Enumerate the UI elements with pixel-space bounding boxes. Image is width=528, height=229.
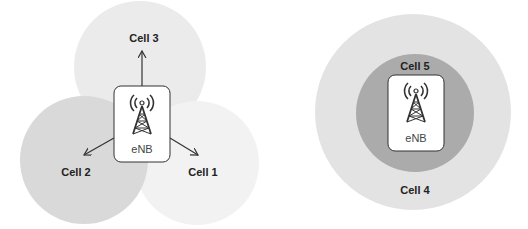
layered-diagram: eNB Cell 5 Cell 4 xyxy=(315,14,511,210)
cell-1-label: Cell 1 xyxy=(188,166,217,178)
enb-label: eNB xyxy=(131,143,152,155)
cell-4-label: Cell 4 xyxy=(400,184,430,196)
cell-3-label: Cell 3 xyxy=(129,32,158,44)
cell-5-label: Cell 5 xyxy=(400,60,429,72)
cell-2-label: Cell 2 xyxy=(61,166,90,178)
enb-label: eNB xyxy=(405,132,426,144)
sectorized-diagram: eNB Cell 3 Cell 2 Cell 1 xyxy=(20,1,259,225)
